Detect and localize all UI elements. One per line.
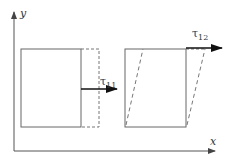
x-axis-label: x [210,135,217,148]
left-element: τ11 [21,49,117,127]
deformed-outline-left [81,49,99,127]
original-rectangle-left [21,49,81,127]
stress-label-tau12: τ12 [192,27,208,42]
sheared-edge-right [187,49,205,125]
stress-diagram: y x τ11 τ12 [0,0,234,162]
right-element: τ12 [125,27,222,127]
stress-label-tau11: τ11 [100,75,116,90]
sheared-edge-left [126,49,143,125]
y-axis-label: y [19,7,27,20]
